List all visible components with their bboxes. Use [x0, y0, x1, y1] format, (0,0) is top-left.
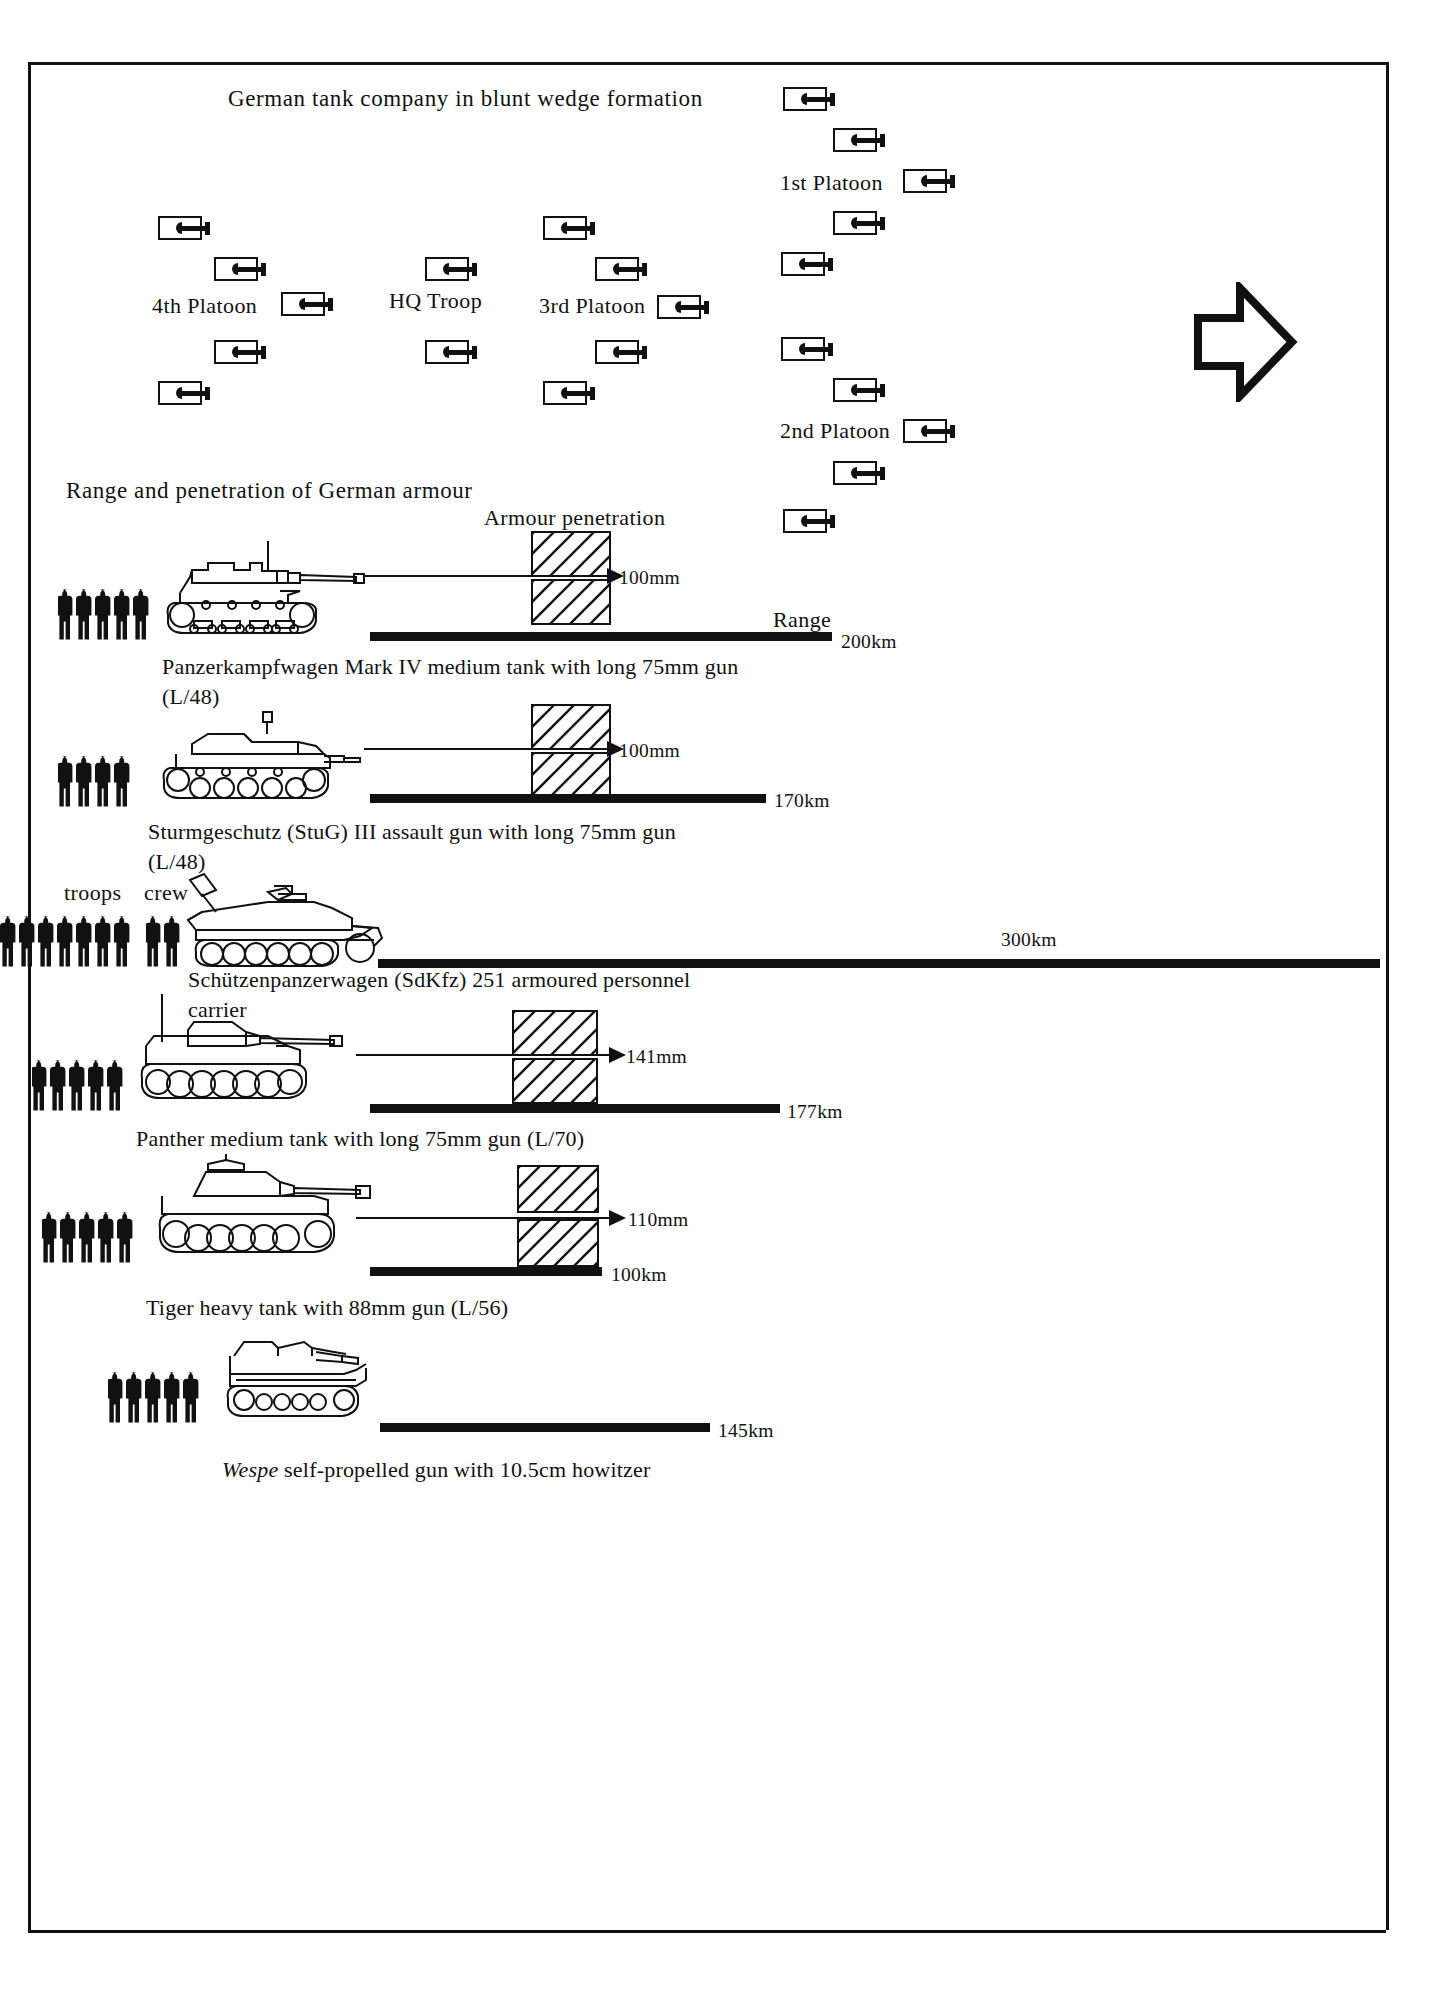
tank-unit-symbol — [657, 295, 711, 321]
tank-symbol-muzzle-brake — [880, 384, 885, 398]
panzer-iv-penetration-value: 100mm — [619, 566, 680, 590]
tank-unit-symbol — [833, 378, 887, 404]
tank-symbol-muzzle-brake — [261, 346, 266, 360]
tank-symbol-muzzle-brake — [950, 175, 955, 189]
label-3rd-platoon: 3rd Platoon — [539, 293, 645, 320]
panther-range-bar — [370, 1104, 780, 1113]
tiger-penetration-block-lower — [517, 1219, 599, 1267]
tank-unit-symbol — [781, 337, 835, 363]
tank-symbol-barrel — [237, 267, 263, 272]
tank-symbol-muzzle-brake — [828, 258, 833, 272]
tank-symbol-barrel — [806, 97, 832, 102]
panzer-iv-range-bar — [370, 632, 832, 641]
tank-unit-symbol — [833, 461, 887, 487]
troops-label: troops — [64, 880, 121, 907]
tank-symbol-muzzle-brake — [950, 425, 955, 439]
tank-unit-symbol — [425, 257, 479, 283]
tank-symbol-barrel — [926, 179, 952, 184]
tank-symbol-barrel — [680, 305, 706, 310]
frame-top-rule — [28, 62, 1386, 65]
stug-iii-range-bar — [370, 794, 766, 803]
tank-unit-symbol — [543, 381, 597, 407]
panzer-iv-crew-figures — [58, 585, 163, 645]
stug-iii-caption-text: Sturmgeschutz (StuG) III assault gun wit… — [148, 819, 676, 874]
tank-symbol-barrel — [618, 350, 644, 355]
tiger-penetration-block-upper — [517, 1165, 599, 1213]
label-2nd-platoon: 2nd Platoon — [780, 418, 890, 445]
tank-symbol-muzzle-brake — [205, 222, 210, 236]
panther-trajectory-arrowhead — [609, 1047, 626, 1063]
tank-symbol-muzzle-brake — [830, 515, 835, 529]
tank-symbol-muzzle-brake — [590, 222, 595, 236]
tank-symbol-barrel — [856, 388, 882, 393]
sdkfz-251-troop-figures — [0, 912, 142, 972]
tank-unit-symbol — [158, 381, 212, 407]
frame-left-rule — [28, 62, 31, 1930]
panther-penetration-block-lower — [512, 1058, 598, 1104]
tank-symbol-barrel — [926, 429, 952, 434]
tank-unit-symbol — [783, 87, 837, 113]
label-hq-troop: HQ Troop — [389, 288, 482, 315]
tank-symbol-barrel — [856, 221, 882, 226]
tank-symbol-muzzle-brake — [472, 263, 477, 277]
range-header: Range — [773, 607, 831, 634]
stug-iii-crew-figures — [58, 752, 148, 812]
tank-symbol-barrel — [806, 519, 832, 524]
tank-symbol-muzzle-brake — [830, 93, 835, 107]
tank-unit-symbol — [903, 419, 957, 445]
wespe-caption-rest: self-propelled gun with 10.5cm howitzer — [278, 1457, 650, 1482]
tank-unit-symbol — [158, 216, 212, 242]
tank-symbol-muzzle-brake — [261, 263, 266, 277]
panzer-iv-range-value: 200km — [841, 630, 897, 654]
frame-right-rule — [1386, 62, 1389, 1930]
tank-symbol-muzzle-brake — [472, 346, 477, 360]
wespe-caption-name: Wespe — [222, 1457, 278, 1482]
panther-crew-figures — [32, 1056, 137, 1116]
tiger-illustration — [148, 1140, 388, 1270]
panzer-iv-penetration-block-lower — [531, 579, 611, 625]
frame-bottom-rule — [28, 1930, 1386, 1933]
panzer-iv-penetration-block-upper — [531, 531, 611, 577]
tank-symbol-barrel — [448, 267, 474, 272]
wespe-crew-figures — [108, 1368, 213, 1428]
tiger-range-bar — [370, 1267, 602, 1276]
tank-symbol-muzzle-brake — [642, 346, 647, 360]
tank-symbol-barrel — [804, 262, 830, 267]
tank-unit-symbol — [543, 216, 597, 242]
tank-unit-symbol — [595, 257, 649, 283]
stug-iii-penetration-value: 100mm — [619, 739, 680, 763]
sdkfz-251-range-value: 300km — [1001, 928, 1057, 952]
tank-unit-symbol — [214, 340, 268, 366]
tank-unit-symbol — [781, 252, 835, 278]
tank-symbol-muzzle-brake — [828, 343, 833, 357]
tank-symbol-muzzle-brake — [704, 301, 709, 315]
panzer-iv-illustration — [150, 525, 380, 645]
tank-symbol-barrel — [181, 226, 207, 231]
stug-iii-illustration — [148, 700, 378, 810]
tiger-range-value: 100km — [611, 1263, 667, 1287]
stug-iii-penetration-block-upper — [531, 704, 611, 750]
tank-symbol-muzzle-brake — [205, 387, 210, 401]
sdkfz-251-illustration — [182, 868, 392, 973]
direction-of-advance-arrow-icon — [1178, 282, 1298, 402]
wespe-range-bar — [380, 1423, 710, 1432]
tank-unit-symbol — [833, 128, 887, 154]
tank-unit-symbol — [281, 292, 335, 318]
tank-unit-symbol — [425, 340, 479, 366]
tiger-caption: Tiger heavy tank with 88mm gun (L/56) — [146, 1293, 766, 1323]
tank-symbol-barrel — [304, 302, 330, 307]
tank-unit-symbol — [903, 169, 957, 195]
tank-unit-symbol — [833, 211, 887, 237]
tiger-trajectory-arrowhead — [609, 1210, 626, 1226]
panther-illustration — [128, 988, 358, 1114]
tank-unit-symbol — [783, 509, 837, 535]
tank-symbol-barrel — [237, 350, 263, 355]
tank-symbol-barrel — [856, 138, 882, 143]
armour-section-title: Range and penetration of German armour — [66, 477, 473, 505]
tank-symbol-muzzle-brake — [328, 298, 333, 312]
tank-symbol-barrel — [856, 471, 882, 476]
tank-symbol-barrel — [566, 391, 592, 396]
tiger-penetration-value: 110mm — [628, 1208, 688, 1232]
label-1st-platoon: 1st Platoon — [780, 170, 883, 197]
tank-symbol-barrel — [181, 391, 207, 396]
